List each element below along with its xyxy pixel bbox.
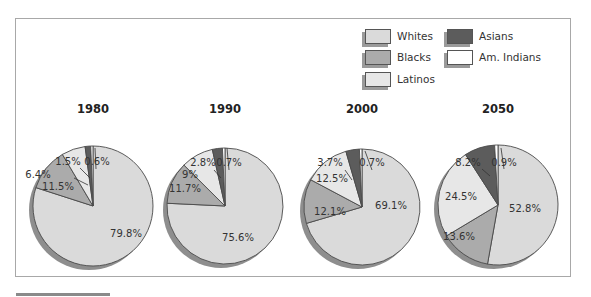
slice-label: 11.5%	[42, 181, 74, 192]
pie-2050: 205052.8%13.6%24.5%8.2%0.9%	[434, 102, 558, 269]
pie-2000: 200069.1%12.1%12.5%3.7%0.7%	[300, 102, 420, 269]
pie-1990: 199075.6%11.7%9%2.8%0.7%	[163, 102, 283, 268]
slice-label: 0.7%	[216, 157, 241, 168]
slice-label: 24.5%	[445, 191, 477, 202]
slice-label: 69.1%	[375, 200, 407, 211]
pie-title: 1990	[209, 102, 241, 116]
slice-label: 12.1%	[314, 206, 346, 217]
slice-label: 0.7%	[359, 157, 384, 168]
slice-label: 8.2%	[455, 157, 480, 168]
slice-label: 1.5%	[55, 156, 80, 167]
slice-label: 0.9%	[491, 157, 516, 168]
slice-label: 6.4%	[25, 169, 50, 180]
slice-label: 75.6%	[222, 232, 254, 243]
pie-title: 2050	[482, 102, 514, 116]
pie-1980: 198079.8%11.5%6.4%1.5%0.6%	[25, 102, 153, 270]
slice-label: 9%	[182, 169, 198, 180]
slice-label: 12.5%	[316, 173, 348, 184]
slice-label: 0.6%	[84, 156, 109, 167]
slice-label: 52.8%	[509, 203, 541, 214]
slice-label: 13.6%	[443, 231, 475, 242]
slice-label: 2.8%	[190, 157, 215, 168]
slice-label: 11.7%	[169, 183, 201, 194]
slice-label: 3.7%	[317, 157, 342, 168]
pie-title: 1980	[77, 102, 109, 116]
slice-label: 79.8%	[110, 228, 142, 239]
pie-title: 2000	[346, 102, 378, 116]
pie-charts: 198079.8%11.5%6.4%1.5%0.6%199075.6%11.7%…	[0, 0, 591, 297]
